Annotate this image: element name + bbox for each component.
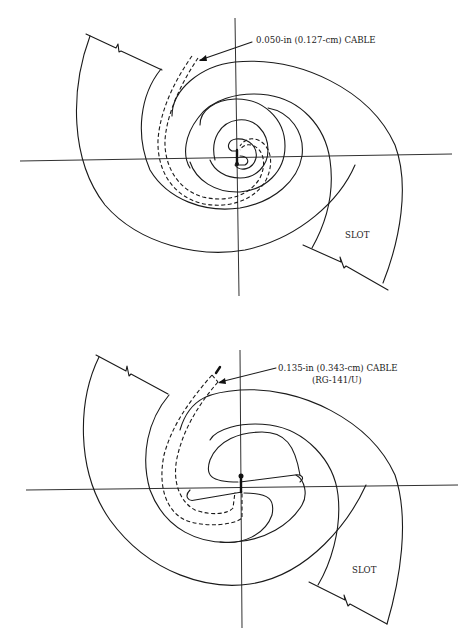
bottom-cable-dashed-cap <box>212 375 218 382</box>
top-right-arm-outer-edge <box>172 61 402 283</box>
bottom-right-arm-outer-edge <box>180 390 403 624</box>
top-feed-point <box>235 162 239 166</box>
bottom-cable-dashed-outer <box>162 375 242 525</box>
bottom-cable-dashed-inner <box>176 382 235 514</box>
bottom-cable-connector <box>216 367 220 373</box>
bottom-left-arm-outer-edge <box>83 357 366 585</box>
top-cable-dashed-outer <box>158 56 271 205</box>
bottom-inner-s-lower <box>187 490 273 543</box>
bottom-spiral-diagram: 0.135-in (0.343-cm) CABLE (RG-141/U) SLO… <box>26 350 458 628</box>
bottom-left-break-line <box>96 355 168 394</box>
top-spiral-turn-2 <box>210 120 268 178</box>
spiral-antenna-figure: 0.050-in (0.127-cm) CABLE SLOT <box>0 0 474 643</box>
top-cable-leader-line <box>200 42 252 60</box>
bottom-cable-arrowhead-icon <box>218 378 226 384</box>
bottom-right-break-line <box>309 582 387 624</box>
top-outer-arm-outer-edge <box>76 36 355 252</box>
top-cable-arrowhead-icon <box>199 55 207 61</box>
bottom-right-arm-inner-edge <box>210 424 339 585</box>
top-spiral-diagram: 0.050-in (0.127-cm) CABLE SLOT <box>20 18 452 296</box>
top-right-break-line <box>303 245 388 290</box>
top-slot-label: SLOT <box>345 230 370 240</box>
bottom-cable-leader-line <box>220 368 276 382</box>
bottom-feed-point <box>239 474 244 479</box>
bottom-inner-s-upper <box>208 432 302 482</box>
top-cable-label: 0.050-in (0.127-cm) CABLE <box>256 35 376 45</box>
bottom-cable-label-line2: (RG-141/U) <box>312 375 362 385</box>
bottom-slot-label: SLOT <box>352 565 377 575</box>
top-left-break-line <box>86 34 162 70</box>
bottom-cable-label-line1: 0.135-in (0.343-cm) CABLE <box>278 363 398 373</box>
top-cable-dashed-inner <box>165 58 264 199</box>
bottom-left-arm-inner-edge <box>146 395 305 542</box>
